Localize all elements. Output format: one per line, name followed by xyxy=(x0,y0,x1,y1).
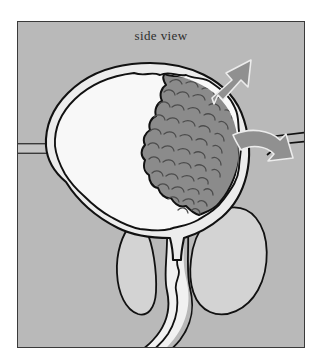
illustration-frame: side view xyxy=(17,21,305,348)
anatomy-drawing xyxy=(18,22,305,348)
figure-root: side view xyxy=(0,0,322,364)
